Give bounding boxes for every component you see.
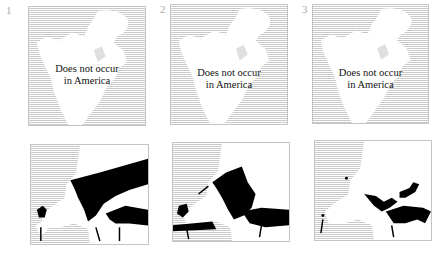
caption-line-2: in America bbox=[171, 79, 287, 91]
caption-line-1: Does not occur bbox=[171, 67, 287, 79]
eurasia-range-map-3 bbox=[314, 140, 432, 241]
panel-number-2: 2 bbox=[160, 3, 166, 15]
north-america-map-1: Does not occur in America bbox=[28, 6, 146, 126]
panel-number-1: 1 bbox=[6, 4, 12, 16]
eurasia-landmass bbox=[31, 145, 148, 244]
caption-line-1: Does not occur bbox=[313, 67, 428, 79]
caption-line-2: in America bbox=[313, 79, 428, 91]
eurasia-landmass bbox=[315, 141, 431, 240]
north-america-landmass bbox=[171, 5, 287, 124]
eurasia-landmass bbox=[173, 143, 289, 241]
eurasia-range-map-2 bbox=[172, 142, 290, 242]
north-america-landmass bbox=[313, 5, 428, 123]
north-america-map-3: Does not occur in America bbox=[312, 4, 429, 124]
north-america-map-2: Does not occur in America bbox=[170, 4, 288, 125]
caption-line-1: Does not occur bbox=[29, 63, 145, 75]
eurasia-range-map-1 bbox=[30, 144, 149, 245]
caption-line-2: in America bbox=[29, 75, 145, 87]
panel-number-3: 3 bbox=[302, 3, 308, 15]
